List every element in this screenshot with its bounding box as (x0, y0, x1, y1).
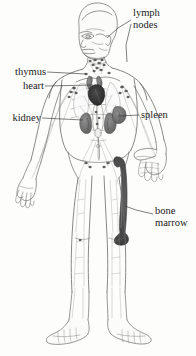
label-thymus-line1: thymus (0, 66, 46, 78)
label-heart: heart (0, 80, 44, 92)
label-spleen-line1: spleen (141, 109, 168, 121)
label-kidney: kidney (0, 112, 41, 124)
label-kidney-line1: kidney (0, 112, 41, 124)
anatomy-artwork (0, 0, 196, 356)
label-lymph-nodes: lymph nodes (133, 7, 160, 30)
label-thymus: thymus (0, 66, 46, 78)
label-spleen: spleen (141, 109, 168, 121)
label-lymph-nodes-line1: lymph (133, 7, 160, 19)
spleen-organ (112, 106, 126, 123)
label-heart-line1: heart (0, 80, 44, 92)
label-bone-marrow-line2: marrow (155, 217, 188, 229)
label-bone-marrow: bone marrow (155, 205, 188, 228)
label-lymph-nodes-line2: nodes (133, 19, 160, 31)
lymphatic-system-diagram: lymph nodes thymus heart kidney spleen b… (0, 0, 196, 356)
label-bone-marrow-line1: bone (155, 205, 188, 217)
